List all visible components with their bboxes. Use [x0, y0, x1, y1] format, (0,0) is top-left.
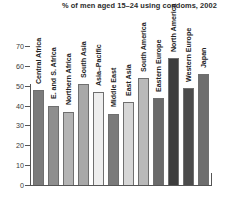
y-axis-tick-label: 60: [2, 62, 24, 71]
bar-category-label: E. and S. Africa: [51, 48, 58, 100]
y-axis-tick: [25, 145, 30, 146]
bar-category-label: North America: [171, 3, 178, 52]
bar[interactable]: [93, 92, 104, 185]
y-axis-tick-label: 20: [2, 141, 24, 150]
bar-category-label: South America: [141, 22, 148, 72]
bar[interactable]: [138, 78, 149, 185]
bar-category-label: South Asia: [81, 41, 88, 78]
bar-slot[interactable]: East Asia: [121, 46, 136, 185]
bar-category-label: East Asia: [126, 64, 133, 96]
bar-slot[interactable]: Middle East: [106, 46, 121, 185]
y-axis-tick-label: 40: [2, 102, 24, 111]
bar-category-label: Middle East: [111, 68, 118, 107]
bar-slot[interactable]: Eastern Europe: [151, 46, 166, 185]
bar-slot[interactable]: South America: [136, 46, 151, 185]
y-axis-tick: [25, 185, 30, 186]
bar[interactable]: [153, 98, 164, 185]
bar[interactable]: [198, 74, 209, 185]
y-axis-tick: [25, 106, 30, 107]
bar[interactable]: [63, 112, 74, 185]
bar[interactable]: [48, 106, 59, 185]
bar-chart: % of men aged 15–24 using condoms, 2002 …: [0, 0, 238, 213]
y-axis-tick-label: 50: [2, 82, 24, 91]
bar-category-label: Northern Africa: [66, 54, 73, 106]
bar-slot[interactable]: North America: [166, 46, 181, 185]
bar[interactable]: [183, 88, 194, 185]
y-axis-tick: [25, 66, 30, 67]
bar-category-label: Japan: [201, 47, 208, 68]
bar[interactable]: [123, 102, 134, 185]
y-axis-tick-label: 0: [2, 181, 24, 190]
bar-slot[interactable]: Asia–Pacific: [91, 46, 106, 185]
bar-category-label: Eastern Europe: [156, 39, 163, 91]
bar[interactable]: [108, 114, 119, 185]
bar-category-label: Western Europe: [186, 27, 193, 81]
bar-slot[interactable]: Western Europe: [181, 46, 196, 185]
bar-slot[interactable]: South Asia: [76, 46, 91, 185]
bar-slot[interactable]: Central Africa: [31, 46, 46, 185]
y-axis-tick: [25, 86, 30, 87]
bar-slot[interactable]: Northern Africa: [61, 46, 76, 185]
bar-slot[interactable]: E. and S. Africa: [46, 46, 61, 185]
bar-series: Central AfricaE. and S. AfricaNorthern A…: [31, 46, 211, 185]
bar-category-label: Asia–Pacific: [96, 44, 103, 86]
bar[interactable]: [168, 58, 179, 185]
y-axis-tick-label: 10: [2, 161, 24, 170]
chart-title: % of men aged 15–24 using condoms, 2002: [62, 1, 234, 10]
y-axis-tick-label: 70: [2, 42, 24, 51]
y-axis-tick: [25, 125, 30, 126]
y-axis-tick: [25, 46, 30, 47]
y-axis-tick-label: 30: [2, 121, 24, 130]
bar-slot[interactable]: Japan: [196, 46, 211, 185]
bar[interactable]: [33, 90, 44, 185]
right-axis-line: [211, 173, 212, 186]
y-axis-tick: [25, 165, 30, 166]
bar[interactable]: [78, 84, 89, 185]
x-axis-line: [30, 185, 212, 186]
bar-category-label: Central Africa: [36, 37, 43, 83]
